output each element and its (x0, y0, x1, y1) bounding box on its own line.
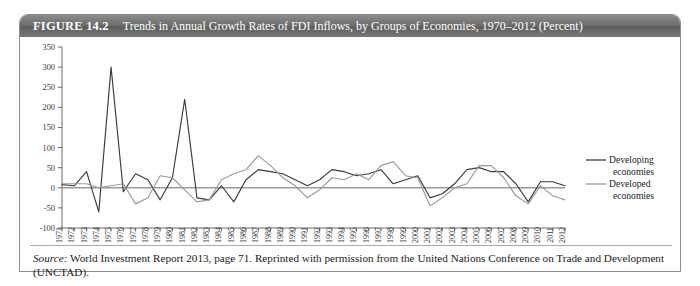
y-axis-tick-label: 350 (42, 43, 55, 52)
legend-label-0-line2: economies (613, 166, 654, 177)
y-axis-tick-label: 0 (51, 184, 55, 193)
x-axis-tick-label: 1988 (264, 227, 273, 243)
x-axis-tick-label: 2005 (472, 227, 481, 243)
x-axis-tick-label: 1982 (190, 227, 199, 243)
x-axis-tick-label: 1990 (288, 227, 297, 243)
x-axis-tick-label: 1992 (313, 227, 322, 243)
x-axis-tick-label: 1983 (202, 227, 211, 243)
x-axis-tick-label: 1985 (227, 227, 236, 243)
source-divider (30, 245, 672, 246)
y-axis-tick-label: 200 (42, 103, 55, 112)
x-axis-tick-label: 1986 (239, 227, 248, 243)
x-axis-tick-label: 2002 (435, 227, 444, 243)
x-axis-tick-label: 1978 (141, 227, 150, 243)
y-axis-tick-label: 150 (42, 123, 55, 132)
x-axis-tick-label: 1987 (251, 227, 260, 243)
x-axis-tick-label: 2011 (546, 227, 555, 243)
x-axis-tick-label: 1975 (104, 227, 113, 243)
x-axis-tick-label: 2006 (484, 227, 493, 243)
x-axis-tick-label: 1998 (386, 227, 395, 243)
series-line-developed-economies (62, 156, 565, 206)
figure-container: FIGURE 14.2 Trends in Annual Growth Rate… (19, 14, 681, 272)
x-axis-tick-label: 1999 (399, 227, 408, 243)
x-axis-tick-label: 1979 (153, 227, 162, 243)
legend-label-0: Developing (609, 154, 654, 165)
page-title: Trends in Annual Growth Rates of FDI Inf… (123, 19, 583, 34)
x-axis-tick-label: 1996 (362, 227, 371, 243)
x-axis-tick-label: 2008 (509, 227, 518, 243)
x-axis-tick-label: 1972 (67, 227, 76, 243)
figure-number-label: FIGURE 14.2 (33, 19, 109, 34)
x-axis-tick-label: 1974 (92, 227, 101, 243)
x-axis-tick-label: 1994 (337, 227, 346, 243)
x-axis-tick-label: 1997 (374, 227, 383, 243)
x-axis-tick-label: 1971 (55, 227, 64, 243)
x-axis-tick-label: 2001 (423, 227, 432, 243)
y-axis-tick-label: -100 (40, 224, 55, 233)
figure-title-bar: FIGURE 14.2 Trends in Annual Growth Rate… (20, 15, 680, 37)
chart-plot-area: 350300250200150100500-50-100197119721973… (20, 37, 680, 245)
legend-label-1-line2: economies (613, 190, 654, 201)
x-axis-tick-label: 1977 (129, 227, 138, 243)
x-axis-tick-label: 2004 (460, 227, 469, 243)
fdi-growth-line-chart: 350300250200150100500-50-100197119721973… (20, 37, 680, 245)
x-axis-tick-label: 1993 (325, 227, 334, 243)
x-axis-tick-label: 1981 (178, 227, 187, 243)
y-axis-tick-label: 50 (47, 164, 55, 173)
legend-label-1: Developed (609, 178, 651, 189)
y-axis-tick-label: 300 (42, 63, 55, 72)
x-axis-tick-label: 2007 (497, 227, 506, 243)
x-axis-tick-label: 2003 (448, 227, 457, 243)
x-axis-tick-label: 1991 (300, 227, 309, 243)
y-axis-tick-label: -50 (44, 204, 55, 213)
x-axis-tick-label: 1973 (80, 227, 89, 243)
series-line-developing-economies (62, 67, 565, 212)
x-axis-tick-label: 1995 (349, 227, 358, 243)
x-axis-tick-label: 2010 (533, 227, 542, 243)
x-axis-tick-label: 1976 (116, 227, 125, 243)
x-axis-tick-label: 1980 (165, 227, 174, 243)
x-axis-tick-label: 2000 (411, 227, 420, 243)
x-axis-tick-label: 2009 (521, 227, 530, 243)
source-label: Source: (33, 252, 67, 264)
x-axis-tick-label: 2012 (558, 227, 567, 243)
x-axis-tick-label: 1989 (276, 227, 285, 243)
x-axis-tick-label: 1984 (214, 227, 223, 243)
y-axis-tick-label: 250 (42, 83, 55, 92)
y-axis-tick-label: 100 (42, 144, 55, 153)
source-note: Source: World Investment Report 2013, pa… (33, 251, 665, 280)
source-text: World Investment Report 2013, page 71. R… (33, 252, 664, 278)
